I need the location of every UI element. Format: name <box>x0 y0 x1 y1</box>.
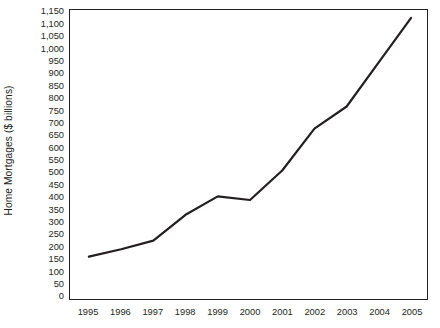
y-tick-label: 1,050 <box>18 32 64 41</box>
y-axis-tick-labels: 1,1501,1001,0501,00095090085080075070065… <box>18 0 64 310</box>
y-tick-label: 200 <box>18 243 64 252</box>
x-axis-tick-labels: 1995199619971998199920002001200220032004… <box>0 306 440 322</box>
y-axis-title-label: Home Mortgages ($ billions) <box>3 85 14 215</box>
x-tick-label: 2005 <box>392 306 432 318</box>
y-tick-label: 1,150 <box>18 7 64 16</box>
data-line-svg <box>70 10 427 299</box>
y-tick-label: 850 <box>18 82 64 91</box>
y-tick-label: 150 <box>18 255 64 264</box>
y-tick-label: 1,100 <box>18 20 64 29</box>
y-tick-label: 100 <box>18 268 64 277</box>
y-axis-title: Home Mortgages ($ billions) <box>0 0 16 300</box>
line-chart-figure: Home Mortgages ($ billions) 1,1501,1001,… <box>0 0 440 328</box>
y-tick-label: 500 <box>18 168 64 177</box>
y-tick-label: 400 <box>18 193 64 202</box>
y-tick-label: 950 <box>18 57 64 66</box>
y-tick-label: 900 <box>18 69 64 78</box>
y-tick-label: 300 <box>18 218 64 227</box>
chart-title <box>0 0 440 3</box>
series-line-home-mortgages <box>89 18 411 257</box>
y-tick-label: 450 <box>18 181 64 190</box>
y-tick-label: 800 <box>18 94 64 103</box>
y-tick-label: 750 <box>18 107 64 116</box>
y-tick-label: 50 <box>18 280 64 289</box>
y-tick-label: 250 <box>18 230 64 239</box>
y-tick-label: 550 <box>18 156 64 165</box>
plot-area <box>69 9 428 300</box>
y-tick-label: 0 <box>18 292 64 301</box>
y-tick-label: 700 <box>18 119 64 128</box>
y-tick-label: 600 <box>18 144 64 153</box>
y-tick-label: 1,000 <box>18 45 64 54</box>
y-tick-label: 650 <box>18 131 64 140</box>
y-tick-label: 350 <box>18 206 64 215</box>
